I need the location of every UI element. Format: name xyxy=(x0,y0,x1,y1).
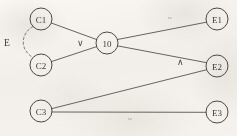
node-c2-label: C2 xyxy=(36,61,47,71)
edge-label-tilde-top: ~ xyxy=(168,14,173,23)
edge-io-e1[interactable] xyxy=(118,22,207,39)
node-e2-label: E2 xyxy=(212,62,222,72)
node-c1[interactable]: C1 xyxy=(30,8,52,30)
node-e1[interactable]: E1 xyxy=(206,8,228,30)
graph-svg: C1 C2 C3 10 E1 E2 xyxy=(0,0,237,136)
node-c3-label: C3 xyxy=(36,107,47,117)
edge-c2-io[interactable] xyxy=(51,47,96,62)
node-io[interactable]: 10 xyxy=(96,32,118,54)
edge-label-and: ∧ xyxy=(177,57,184,67)
node-layer: C1 C2 C3 10 E1 E2 xyxy=(30,8,228,123)
node-e3[interactable]: E3 xyxy=(206,101,228,123)
node-io-label: 10 xyxy=(103,39,113,49)
node-c1-label: C1 xyxy=(36,15,47,25)
node-e1-label: E1 xyxy=(212,15,222,25)
edge-c1-io[interactable] xyxy=(51,23,97,40)
node-c2[interactable]: C2 xyxy=(30,54,52,76)
group-label-e: E xyxy=(4,38,10,48)
edge-c1-c2-dashed[interactable] xyxy=(23,27,33,58)
edge-label-or: ∨ xyxy=(77,38,84,48)
edge-label-tilde-bottom: ~ xyxy=(128,115,133,124)
diagram-canvas: C1 C2 C3 10 E1 E2 xyxy=(0,0,237,136)
edge-c3-e2[interactable] xyxy=(52,70,207,109)
node-e3-label: E3 xyxy=(212,108,222,118)
group-label-layer: E xyxy=(4,38,10,48)
edge-io-e2[interactable] xyxy=(118,46,207,63)
node-c3[interactable]: C3 xyxy=(30,100,52,122)
node-e2[interactable]: E2 xyxy=(206,55,228,77)
